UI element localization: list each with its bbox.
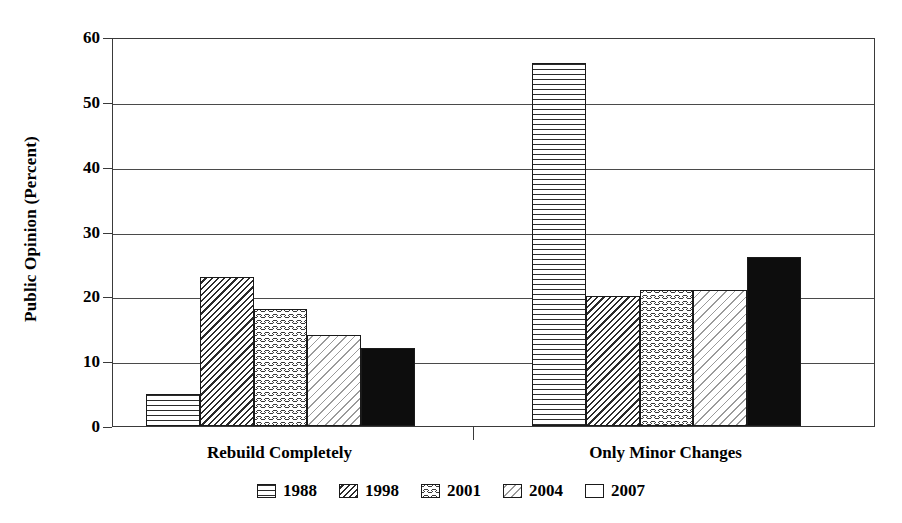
legend-entry-1998[interactable]: 1998: [339, 482, 399, 499]
legend-swatch-icon-2007: [585, 484, 604, 498]
y-tick-label: 0: [40, 417, 100, 437]
legend-label-2004: 2004: [529, 482, 563, 499]
legend-label-2007: 2007: [611, 482, 645, 499]
bar-1988-only-minor-changes: [532, 63, 586, 426]
chart-legend: 19881998200120042007: [0, 482, 902, 499]
y-tick-label: 40: [40, 158, 100, 178]
legend-entry-2001[interactable]: 2001: [421, 482, 481, 499]
y-tick-mark: [103, 103, 112, 104]
y-tick-mark: [103, 297, 112, 298]
bar-2007-only-minor-changes: [747, 257, 801, 426]
category-label-rebuild-completely: Rebuild Completely: [130, 443, 430, 463]
gridline: [113, 169, 874, 170]
bar-1998-only-minor-changes: [586, 296, 640, 426]
y-tick-label: 50: [40, 93, 100, 113]
legend-entry-2004[interactable]: 2004: [503, 482, 563, 499]
y-tick-mark: [103, 38, 112, 39]
legend-entry-1988[interactable]: 1988: [257, 482, 317, 499]
legend-swatch-icon-1998: [339, 484, 358, 498]
gridline: [113, 234, 874, 235]
y-tick-label: 20: [40, 287, 100, 307]
category-separator-tick: [473, 427, 474, 440]
category-label-only-minor-changes: Only Minor Changes: [516, 443, 816, 463]
legend-entry-2007[interactable]: 2007: [585, 482, 645, 499]
bar-chart-figure: Public Opinion (Percent) 6050403020100 R…: [0, 0, 902, 523]
legend-swatch-icon-1988: [257, 484, 276, 498]
bar-2004-only-minor-changes: [693, 290, 747, 426]
bar-2007-rebuild-completely: [361, 348, 415, 426]
legend-swatch-icon-2001: [421, 484, 440, 498]
y-tick-mark: [103, 233, 112, 234]
y-tick-label: 10: [40, 352, 100, 372]
y-tick-label: 60: [40, 28, 100, 48]
y-tick-mark: [103, 427, 112, 428]
y-tick-label: 30: [40, 223, 100, 243]
legend-label-1988: 1988: [283, 482, 317, 499]
legend-swatch-icon-2004: [503, 484, 522, 498]
y-tick-mark: [103, 168, 112, 169]
y-tick-mark: [103, 362, 112, 363]
legend-label-1998: 1998: [365, 482, 399, 499]
bar-1998-rebuild-completely: [200, 277, 254, 426]
bar-1988-rebuild-completely: [146, 394, 200, 426]
plot-area: [112, 38, 875, 427]
bar-2001-only-minor-changes: [640, 290, 694, 426]
y-axis-title: Public Opinion (Percent): [21, 94, 41, 364]
bar-2001-rebuild-completely: [254, 309, 308, 426]
legend-label-2001: 2001: [447, 482, 481, 499]
bar-2004-rebuild-completely: [307, 335, 361, 426]
gridline: [113, 104, 874, 105]
